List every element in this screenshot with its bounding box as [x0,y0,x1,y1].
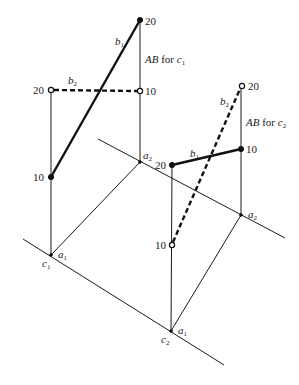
left-b1-bottom-point [48,174,53,179]
left-b2-left-point [48,87,53,92]
left-b1-bottom-value: 10 [33,171,45,183]
left-a1-a2-connector [51,162,140,255]
right-b2-top-value: 20 [248,80,260,92]
right-view: 20 10 20 10 b2 b1 AB for c2 c2 a1 a2 [155,80,287,347]
right-a2-point [240,214,243,217]
left-b2-label: b2 [68,74,78,88]
left-view: 20 20 10 10 b1 b2 AB for c1 c1 a1 a2 [33,15,186,271]
right-b1-right-value: 10 [246,143,258,155]
right-line-b1 [172,149,241,165]
left-b2-left-value: 20 [33,84,45,96]
right-b1-label: b1 [190,147,200,161]
left-a1-label: a1 [58,248,68,262]
right-b1-left-value: 20 [155,159,167,171]
left-b1-label: b1 [115,35,125,49]
left-c1-label: c1 [42,257,51,271]
right-a2-label: a2 [248,208,258,222]
right-a1-label: a1 [178,324,188,338]
right-b2-top-point [239,83,244,88]
skew-lines-diagram: 20 20 10 10 b1 b2 AB for c1 c1 a1 a2 20 … [0,0,299,385]
right-b1-right-point [238,146,243,151]
right-c2-point [170,330,173,333]
left-b1-top-point [137,17,142,22]
left-a2-label: a2 [143,149,153,163]
left-line-b1 [51,20,140,177]
left-c1-point [50,254,53,257]
lower-ground-line [23,239,224,365]
left-line-b2 [54,90,137,91]
right-ab-caption: AB for c2 [245,116,287,130]
left-ab-caption: AB for c1 [144,53,186,67]
right-a1-a2-connector [171,215,241,331]
right-c2-label: c2 [161,333,170,347]
left-b1-top-value: 20 [145,15,157,27]
left-a2-point [139,161,142,164]
right-b2-label: b2 [220,95,230,109]
right-b2-bottom-point [169,242,174,247]
left-b2-right-value: 10 [145,85,157,97]
left-b2-right-point [137,88,142,93]
right-b2-bottom-value: 10 [155,239,167,251]
right-b1-left-point [169,162,174,167]
right-line-b2 [173,89,240,242]
